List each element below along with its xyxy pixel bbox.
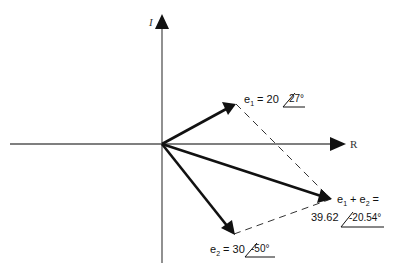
vector-e1 xyxy=(162,108,228,144)
sum-magnitude: 39.62 xyxy=(311,211,339,223)
sum-angle: -20.54° xyxy=(349,212,381,223)
vector-sum xyxy=(162,144,321,196)
svg-text:27°: 27° xyxy=(289,93,304,104)
real-axis-arrow-icon xyxy=(330,137,346,151)
e2-label: e2= 30 -50° xyxy=(210,243,275,257)
sum-arrowhead-icon xyxy=(317,189,332,203)
imaginary-axis-label: I xyxy=(148,16,154,28)
svg-text:e1+ e2=: e1+ e2= xyxy=(337,193,379,207)
e1-label: e1= 20 27° xyxy=(244,93,305,107)
phasor-diagram: R I e1= 20 27° e2= 30 -50° e1+ e2= 39.62 xyxy=(0,0,394,274)
svg-text:-50°: -50° xyxy=(251,243,269,254)
svg-text:e2= 30: e2= 30 xyxy=(210,243,245,257)
vector-e2 xyxy=(162,144,228,227)
vertical-axis xyxy=(155,14,169,263)
svg-text:e1= 20: e1= 20 xyxy=(244,93,279,107)
e1-arrowhead-icon xyxy=(222,102,236,115)
imaginary-axis-arrow-icon xyxy=(155,14,169,29)
real-axis-label: R xyxy=(350,138,358,150)
